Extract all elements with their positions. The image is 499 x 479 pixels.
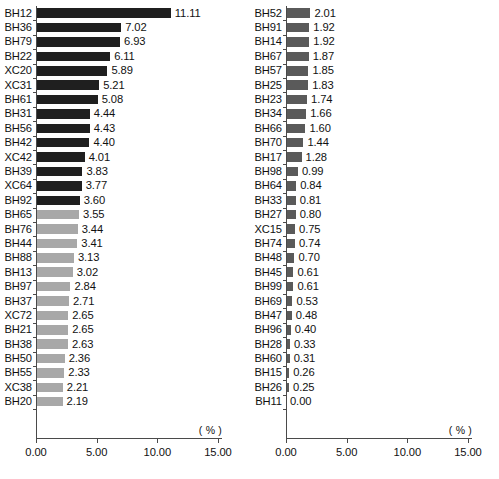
bar-value-label: 3.55	[79, 209, 104, 220]
bar-value-label: 3.44	[78, 224, 103, 235]
bar-category-label: BH69	[250, 296, 286, 307]
bar-value-label: 2.71	[69, 296, 94, 307]
bar-value-label: 6.11	[110, 51, 135, 62]
bar	[36, 23, 121, 33]
bar-value-label: 0.53	[292, 296, 317, 307]
bar-value-label: 0.00	[286, 396, 311, 407]
x-axis-tick	[468, 439, 469, 443]
bar-value-label: 0.48	[292, 310, 317, 321]
bar-row: BH690.53	[250, 294, 499, 308]
bar-cell: 7.02	[36, 20, 250, 34]
bar-category-label: BH92	[0, 195, 36, 206]
bar-category-label: BH56	[0, 123, 36, 134]
bar-value-label: 0.81	[296, 195, 321, 206]
bar-cell: 3.77	[36, 179, 250, 193]
bar-value-label: 4.40	[89, 137, 114, 148]
bar-category-label: BH25	[250, 80, 286, 91]
bar-cell: 0.53	[286, 294, 499, 308]
bar-category-label: BH99	[250, 281, 286, 292]
bar-cell: 1.92	[286, 20, 499, 34]
bar	[286, 37, 309, 47]
bar-value-label: 2.01	[310, 8, 335, 19]
bar-cell: 4.40	[36, 136, 250, 150]
bar-row: BH231.74	[250, 92, 499, 106]
bar	[286, 152, 302, 162]
bar	[36, 66, 107, 76]
x-axis-tick	[407, 439, 408, 443]
bar-cell: 0.25	[286, 380, 499, 394]
bar-value-label: 0.74	[295, 238, 320, 249]
bar-cell: 3.44	[36, 222, 250, 236]
x-axis-unit-label: ( % )	[199, 424, 222, 436]
bar-value-label: 2.63	[68, 339, 93, 350]
bar-cell: 1.60	[286, 121, 499, 135]
bar-cell: 1.28	[286, 150, 499, 164]
bar-row: BH141.92	[250, 35, 499, 49]
bar-cell: 11.11	[36, 6, 250, 20]
bar-cell: 4.01	[36, 150, 250, 164]
bar-category-label: BH76	[0, 224, 36, 235]
bar-category-label: BH50	[0, 353, 36, 364]
bar-cell: 0.61	[286, 279, 499, 293]
bar-row: BH571.85	[250, 64, 499, 78]
bar-cell: 0.75	[286, 222, 499, 236]
bar-value-label: 2.33	[64, 367, 89, 378]
bar-value-label: 1.85	[308, 65, 333, 76]
bar-category-label: BH31	[0, 108, 36, 119]
bar-cell: 1.44	[286, 136, 499, 150]
x-axis-tick	[347, 439, 348, 443]
bar-cell: 0.80	[286, 207, 499, 221]
bar	[286, 52, 309, 62]
bar-category-label: BH11	[250, 396, 286, 407]
bar-category-label: BH14	[250, 36, 286, 47]
bar-cell: 1.85	[286, 64, 499, 78]
x-axis-tick	[36, 439, 37, 443]
bar	[36, 80, 99, 90]
bar-value-label: 0.26	[289, 367, 314, 378]
bar-cell: 0.26	[286, 366, 499, 380]
bar	[36, 95, 98, 105]
bar-category-label: BH27	[250, 209, 286, 220]
bar-cell: 1.66	[286, 107, 499, 121]
bar-category-label: BH70	[250, 137, 286, 148]
bar-value-label: 11.11	[171, 8, 201, 19]
bar-row: BH615.08	[0, 92, 250, 106]
bar-cell: 4.43	[36, 121, 250, 135]
x-axis-tick	[286, 439, 287, 443]
bar-category-label: BH67	[250, 51, 286, 62]
bar-row: BH424.40	[0, 136, 250, 150]
bar	[286, 95, 307, 105]
bar-cell: 2.65	[36, 323, 250, 337]
bar-cell: 5.89	[36, 64, 250, 78]
bar-cell: 1.92	[286, 35, 499, 49]
bar-category-label: BH44	[0, 238, 36, 249]
bar	[286, 267, 293, 277]
bar-cell: 0.40	[286, 323, 499, 337]
bar-category-label: BH33	[250, 195, 286, 206]
bar-value-label: 1.87	[309, 51, 334, 62]
x-axis-tick	[97, 439, 98, 443]
bar-cell: 2.36	[36, 351, 250, 365]
bar	[36, 253, 74, 263]
x-axis-tick-label: 15.00	[204, 446, 232, 458]
bar	[36, 152, 85, 162]
bar-cell: 2.65	[36, 308, 250, 322]
bar-row: BH600.31	[250, 351, 499, 365]
bar	[36, 124, 90, 134]
x-axis-tick-label: 0.00	[275, 446, 296, 458]
bar-category-label: BH17	[250, 152, 286, 163]
bar-row: BH202.19	[0, 395, 250, 409]
bar-category-label: BH39	[0, 166, 36, 177]
bar-cell: 0.99	[286, 164, 499, 178]
bar-row: BH270.80	[250, 207, 499, 221]
bar-cell: 1.74	[286, 92, 499, 106]
bar-row: BH552.33	[0, 366, 250, 380]
bar-row: BH367.02	[0, 20, 250, 34]
bar-category-label: BH91	[250, 22, 286, 33]
bar	[36, 383, 63, 393]
bar-category-label: BH13	[0, 267, 36, 278]
bar	[36, 52, 110, 62]
bar-value-label: 0.31	[290, 353, 315, 364]
bar-cell: 4.44	[36, 107, 250, 121]
bar	[36, 368, 64, 378]
